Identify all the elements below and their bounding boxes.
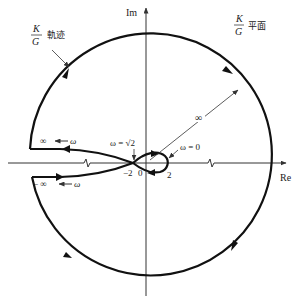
direction-arrow-icon [62, 145, 70, 153]
real-axis [8, 159, 286, 167]
plane-label: K G 平面 [234, 13, 266, 37]
nyquist-diagram: Im Re K G 平面 K G 軌迹 ∞ ω − ∞ ω ω = √2 ω =… [0, 0, 300, 302]
plane-label-numerator: K [235, 13, 244, 24]
locus-label-denominator: G [32, 36, 39, 47]
lower-branch-infinity: − ∞ [33, 179, 47, 189]
tick-two: 2 [167, 170, 172, 180]
plane-label-suffix: 平面 [248, 21, 266, 31]
upper-branch-omega: ω [70, 136, 76, 146]
locus-label: K G 軌迹 [31, 23, 65, 47]
locus-label-suffix: 軌迹 [47, 29, 65, 40]
direction-arrow-icon [222, 66, 233, 74]
infinite-radius-label: ∞ [195, 112, 202, 123]
direction-arrow-icon [231, 240, 238, 251]
imag-axis-label: Im [126, 7, 137, 18]
omega-zero-pointer [169, 150, 178, 158]
plane-label-denominator: G [235, 26, 242, 37]
locus-label-numerator: K [32, 23, 41, 34]
direction-arrow-icon [63, 252, 72, 258]
direction-arrow-icon [147, 169, 155, 176]
tick-minus-two: −2 [123, 168, 133, 178]
locus-label-leader [52, 50, 69, 67]
upper-branch-infinity: ∞ [40, 136, 46, 146]
lower-branch-omega: ω [74, 179, 80, 189]
locus-upper-branch [30, 149, 133, 163]
direction-arrow-icon [56, 173, 64, 181]
real-axis-label: Re [280, 172, 292, 183]
omega-zero-label: ω = 0 [180, 142, 200, 152]
locus-lower-branch [32, 163, 133, 177]
locus-outer-arc [30, 33, 272, 275]
omega-sqrt2-label: ω = √2 [110, 138, 135, 148]
tick-zero: 0 [138, 168, 143, 178]
